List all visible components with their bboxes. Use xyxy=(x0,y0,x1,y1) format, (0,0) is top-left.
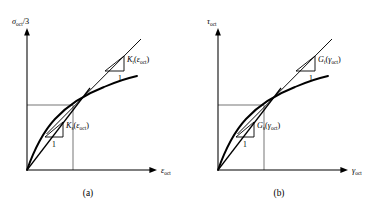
panel-b-plot: 1 Gt(γoct) 1 Gs(γoct) τoct γoct (b) xyxy=(191,0,382,206)
secant-modulus-label-b: Gs(γoct) xyxy=(257,121,281,131)
panel-a-plot: 1 Kt(εoct) 1 Ks(εoct) σoct/3 εoct (a) xyxy=(0,0,191,206)
secant-modulus-label-a: Ks(εoct) xyxy=(65,121,89,131)
y-axis-suffix-a: /3 xyxy=(23,17,29,26)
x-axis-subscript-a: oct xyxy=(164,170,171,176)
tangent-slope-triangle-a xyxy=(105,56,124,71)
x-axis-arrow-a xyxy=(149,167,157,173)
tangent-modulus-label-b: Gt(γoct) xyxy=(318,55,341,65)
secant-rise-label-b: 1 xyxy=(243,140,247,149)
tangent-modulus-label-a: Kt(εoct) xyxy=(126,55,150,65)
panel-a: 1 Kt(εoct) 1 Ks(εoct) σoct/3 εoct (a) xyxy=(0,0,191,206)
x-axis-arrow-b xyxy=(340,167,348,173)
panel-b: 1 Gt(γoct) 1 Gs(γoct) τoct γoct (b) xyxy=(191,0,382,206)
tangent-slope-triangle-b xyxy=(296,56,315,71)
tangent-rise-label-a: 1 xyxy=(118,74,122,83)
panel-b-caption: (b) xyxy=(274,188,285,199)
x-axis-subscript-b: oct xyxy=(355,170,362,176)
y-axis-label-a: σoct/3 xyxy=(12,17,29,27)
tangent-line-a xyxy=(47,39,142,134)
y-axis-subscript-b: oct xyxy=(210,21,217,27)
y-axis-arrow-b xyxy=(215,28,221,36)
x-axis-label-b: γoct xyxy=(352,166,362,176)
figure-container: 1 Kt(εoct) 1 Ks(εoct) σoct/3 εoct (a) xyxy=(0,0,382,206)
secant-rise-label-a: 1 xyxy=(52,140,56,149)
tangent-line-b xyxy=(238,39,333,134)
y-axis-arrow-a xyxy=(24,28,30,36)
shear-stress-strain-curve-b xyxy=(218,76,328,170)
x-axis-label-a: εoct xyxy=(161,166,171,176)
stress-strain-curve-a xyxy=(27,76,137,170)
tangent-rise-label-b: 1 xyxy=(309,74,313,83)
panel-a-caption: (a) xyxy=(83,188,93,199)
y-axis-label-b: τoct xyxy=(207,17,217,27)
